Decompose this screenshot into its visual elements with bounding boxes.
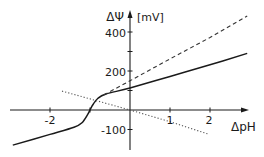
y-axis-unit: [mV] [137, 11, 164, 24]
y-tick-label-m100: -100 [101, 124, 126, 137]
x-tick-label-m2: -2 [45, 114, 56, 127]
chart: 400 200 -100 -2 1 2 ΔΨ [mV] ΔpH [0, 0, 264, 157]
x-axis-label: ΔpH [231, 120, 256, 134]
y-tick-label-200: 200 [105, 66, 126, 79]
y-axis-arrow-icon [128, 10, 133, 18]
tick-labels: 400 200 -100 -2 1 2 [45, 27, 213, 137]
x-axis-arrow-icon [241, 108, 249, 113]
x-tick-label-1: 1 [167, 114, 174, 127]
y-tick-label-400: 400 [105, 27, 126, 40]
x-tick-label-2: 2 [206, 114, 213, 127]
y-axis-label: ΔΨ [106, 10, 124, 24]
series-dotted-line [62, 91, 208, 134]
